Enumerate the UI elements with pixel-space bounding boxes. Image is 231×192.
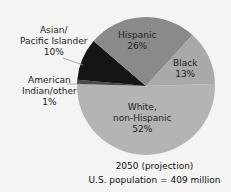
label-hispanic: Hispanic 26% bbox=[118, 30, 156, 52]
asian-leader-line bbox=[63, 58, 83, 65]
label-asian: Asian/ Pacific Islander 10% bbox=[20, 25, 87, 58]
chart-subtitle: U.S. population = 409 million bbox=[78, 174, 231, 186]
label-white: White, non-Hispanic 52% bbox=[113, 102, 172, 135]
chart-title: 2050 (projection) bbox=[78, 160, 231, 172]
label-american-indian: American Indian/other 1% bbox=[22, 75, 77, 108]
label-black: Black 13% bbox=[173, 58, 197, 80]
pie-chart: Hispanic 26% Black 13% White, non-Hispan… bbox=[0, 0, 231, 192]
